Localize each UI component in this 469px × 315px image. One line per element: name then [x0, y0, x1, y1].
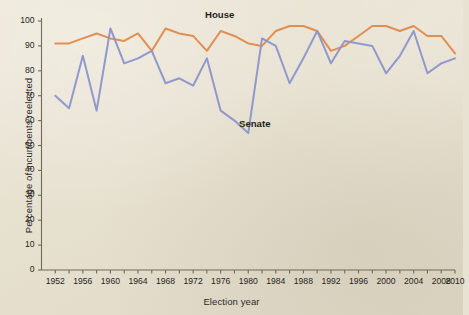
data-series-group: [55, 26, 455, 133]
axes: [38, 18, 455, 274]
series-label-senate: Senate: [239, 118, 270, 129]
series-label-house: House: [205, 9, 234, 20]
